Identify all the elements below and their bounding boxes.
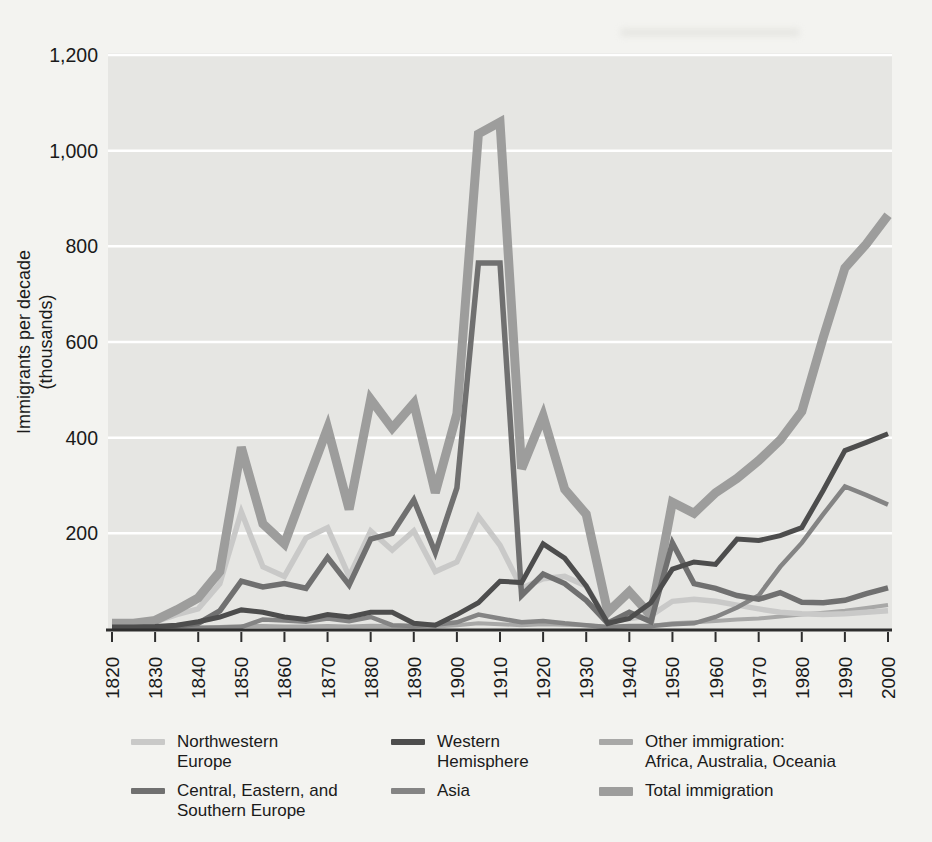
x-tick-label: 1900: [447, 657, 468, 699]
book-figure-page: 1820183018401850186018701880189019001910…: [0, 0, 932, 842]
x-tick-label: 1820: [102, 657, 123, 699]
x-tick-label: 1910: [490, 657, 511, 699]
legend-label-other: Other immigration:Africa, Australia, Oce…: [645, 732, 836, 772]
x-tick-label: 1950: [662, 657, 683, 699]
x-tick-label: 1840: [188, 657, 209, 699]
legend-item-total: Total immigration: [599, 781, 774, 801]
y-axis-title-line2: (thousands): [36, 294, 56, 389]
x-tick-label: 1870: [318, 657, 339, 699]
legend-item-nw: NorthwesternEurope: [131, 732, 278, 772]
x-tick-label: 1890: [404, 657, 425, 699]
y-tick-label: 400: [65, 427, 98, 449]
x-tick-label: 1860: [274, 657, 295, 699]
x-tick-label: 1970: [749, 657, 770, 699]
x-tick-label: 1880: [361, 657, 382, 699]
y-tick-label: 1,000: [49, 140, 98, 162]
legend-item-ces: Central, Eastern, andSouthern Europe: [131, 781, 338, 821]
legend-swatch-ces: [131, 788, 165, 794]
legend-swatch-other: [599, 739, 633, 745]
y-tick-label: 1,200: [49, 44, 98, 66]
legend-item-asia: Asia: [391, 781, 470, 801]
legend-label-nw: NorthwesternEurope: [177, 732, 278, 772]
legend-swatch-nw: [131, 739, 165, 745]
legend-item-other: Other immigration:Africa, Australia, Oce…: [599, 732, 836, 772]
y-tick-label: 800: [65, 235, 98, 257]
legend-swatch-asia: [391, 788, 425, 794]
y-tick-label: 600: [65, 331, 98, 353]
legend-swatch-total: [599, 787, 633, 796]
axis-layer: [106, 630, 892, 642]
x-tick-label: 1830: [145, 657, 166, 699]
y-tick-label: 200: [65, 522, 98, 544]
legend-swatch-wh: [391, 739, 425, 745]
x-tick-label: 1960: [706, 657, 727, 699]
legend-label-ces: Central, Eastern, andSouthern Europe: [177, 781, 338, 821]
x-tick-label: 2000: [878, 657, 899, 699]
legend-item-wh: WesternHemisphere: [391, 732, 529, 772]
x-tick-label: 1850: [231, 657, 252, 699]
y-axis-title-line1: Immigrants per decade: [14, 250, 34, 434]
x-tick-label: 1940: [619, 657, 640, 699]
legend-label-wh: WesternHemisphere: [437, 732, 529, 772]
legend-label-total: Total immigration: [645, 781, 774, 801]
x-tick-label: 1990: [835, 657, 856, 699]
x-tick-label: 1930: [576, 657, 597, 699]
immigration-line-chart: 1820183018401850186018701880189019001910…: [0, 0, 932, 712]
legend-label-asia: Asia: [437, 781, 470, 801]
x-tick-label: 1980: [792, 657, 813, 699]
x-tick-label: 1920: [533, 657, 554, 699]
